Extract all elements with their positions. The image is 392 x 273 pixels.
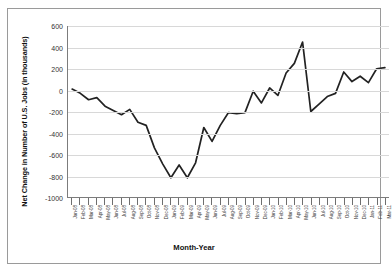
x-tick	[162, 198, 163, 205]
x-tick	[385, 198, 386, 205]
x-tick	[368, 198, 369, 205]
gridline	[68, 48, 389, 49]
gridline	[68, 134, 389, 135]
x-tick	[178, 198, 179, 205]
x-tick-label: Feb-09	[180, 205, 185, 219]
x-tick-label: Jul-08	[122, 205, 127, 217]
x-tick	[311, 198, 312, 205]
x-axis-tick-labels: Jan-08Feb-08Mar-08Apr-08May-08Jun-08Jul-…	[67, 205, 389, 239]
y-tick-label: 200	[51, 66, 63, 73]
x-tick-label: Jun-09	[213, 205, 218, 218]
gridline	[68, 112, 389, 113]
x-tick-label: Jan-08	[73, 205, 78, 218]
plot-area	[67, 26, 389, 198]
x-tick	[137, 198, 138, 205]
x-tick-label: Jan-11	[370, 205, 375, 218]
x-tick	[154, 198, 155, 205]
x-tick	[187, 198, 188, 205]
x-tick-label: Feb-08	[81, 205, 86, 219]
chart-frame: Net Change in Number of U.S. Jobs (in th…	[7, 8, 381, 264]
x-tick	[269, 198, 270, 205]
y-tick-label: -800	[49, 173, 63, 180]
x-tick	[228, 198, 229, 205]
x-tick-label: Feb-11	[378, 205, 383, 219]
x-tick	[129, 198, 130, 205]
x-tick-label: Mar-08	[89, 205, 94, 219]
y-tick-label: 400	[51, 44, 63, 51]
x-tick	[195, 198, 196, 205]
x-tick	[236, 198, 237, 205]
x-tick	[335, 198, 336, 205]
x-axis-title: Month-Year	[8, 243, 380, 252]
x-tick-label: Jul-09	[222, 205, 227, 217]
y-tick-label: 600	[51, 23, 63, 30]
x-tick-label: May-08	[106, 205, 111, 220]
x-tick-label: Jan-09	[172, 205, 177, 218]
x-tick	[261, 198, 262, 205]
gridline	[68, 69, 389, 70]
gridline	[68, 26, 389, 27]
x-tick-label: Jan-10	[271, 205, 276, 218]
x-tick-label: Feb-10	[279, 205, 284, 219]
x-tick	[286, 198, 287, 205]
x-tick-label: Dec-10	[362, 205, 367, 219]
x-tick-label: May-10	[304, 205, 309, 220]
y-tick-label: -400	[49, 130, 63, 137]
x-tick	[253, 198, 254, 205]
x-tick	[360, 198, 361, 205]
x-tick-label: Jul-10	[321, 205, 326, 217]
x-tick	[278, 198, 279, 205]
plot-area-wrapper: 6004002000-200-400-600-800-1000	[39, 26, 391, 216]
gridline	[68, 91, 389, 92]
y-tick-label: -200	[49, 109, 63, 116]
x-tick	[79, 198, 80, 205]
x-tick	[88, 198, 89, 205]
x-tick-label: Oct-08	[147, 205, 152, 218]
x-tick-label: Jun-08	[114, 205, 119, 218]
y-axis-title-text: Net Change in Number of U.S. Jobs (in th…	[20, 36, 29, 206]
x-tick	[96, 198, 97, 205]
x-tick-label: Mar-10	[288, 205, 293, 219]
x-tick-label: Mar-11	[387, 205, 392, 219]
x-tick	[104, 198, 105, 205]
gridline	[68, 155, 389, 156]
x-tick-label: Dec-08	[164, 205, 169, 219]
x-tick-label: Aug-09	[230, 205, 235, 219]
x-tick-label: Sep-09	[238, 205, 243, 219]
y-tick-label: -600	[49, 152, 63, 159]
x-tick	[112, 198, 113, 205]
x-tick	[220, 198, 221, 205]
x-tick-label: Apr-09	[197, 205, 202, 218]
x-tick-label: Sep-08	[139, 205, 144, 219]
x-tick-label: Nov-08	[155, 205, 160, 219]
x-tick-label: May-09	[205, 205, 210, 220]
x-tick	[327, 198, 328, 205]
x-tick	[211, 198, 212, 205]
x-tick-label: Dec-09	[263, 205, 268, 219]
x-tick	[294, 198, 295, 205]
y-axis-title: Net Change in Number of U.S. Jobs (in th…	[17, 29, 31, 214]
x-tick-label: Aug-08	[131, 205, 136, 219]
x-tick-label: Apr-10	[296, 205, 301, 218]
x-tick-label: Oct-10	[345, 205, 350, 218]
x-tick-label: Oct-09	[246, 205, 251, 218]
x-tick	[71, 198, 72, 205]
gridline	[68, 177, 389, 178]
x-tick-label: Nov-10	[354, 205, 359, 219]
x-tick	[170, 198, 171, 205]
y-tick-label: 0	[59, 87, 63, 94]
x-tick	[352, 198, 353, 205]
y-axis-tick-labels: 6004002000-200-400-600-800-1000	[39, 26, 65, 198]
x-tick-label: Aug-10	[329, 205, 334, 219]
x-tick-label: Mar-09	[189, 205, 194, 219]
x-tick-label: Jun-10	[312, 205, 317, 218]
x-tick-label: Nov-09	[255, 205, 260, 219]
x-tick-label: Sep-10	[337, 205, 342, 219]
y-tick-label: -1000	[45, 195, 63, 202]
x-tick	[319, 198, 320, 205]
x-tick	[245, 198, 246, 205]
x-tick	[145, 198, 146, 205]
x-tick-label: Apr-08	[98, 205, 103, 218]
x-tick	[344, 198, 345, 205]
